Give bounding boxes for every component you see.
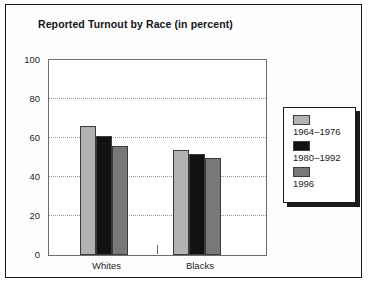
plot-area — [48, 59, 267, 256]
legend-item: 1996 — [293, 167, 355, 189]
legend-swatch — [293, 141, 310, 151]
page-title: Reported Turnout by Race (in percent) — [38, 18, 233, 30]
x-axis-category-label: Blacks — [186, 260, 214, 271]
page-frame: Reported Turnout by Race (in percent) 10… — [5, 4, 362, 278]
bar — [112, 146, 128, 255]
legend-swatch — [293, 167, 310, 177]
legend-item: 1980–1992 — [293, 141, 355, 163]
bar — [173, 150, 189, 255]
y-axis-tick-label: 80 — [29, 93, 40, 104]
legend-item: 1964–1976 — [293, 115, 355, 137]
legend-label: 1964–1976 — [293, 126, 355, 137]
y-axis-tick-label: 60 — [29, 132, 40, 143]
bar — [96, 136, 112, 255]
bar — [189, 154, 205, 255]
y-axis: 100806040200 — [6, 53, 44, 263]
bar-group-whites — [80, 126, 136, 255]
y-axis-tick-label: 20 — [29, 210, 40, 221]
legend-label: 1980–1992 — [293, 152, 355, 163]
legend-swatch — [293, 115, 310, 125]
x-axis-category-label: Whites — [92, 260, 121, 271]
axis-center-tick — [157, 245, 158, 254]
chart-figure: Reported Turnout by Race (in percent) 10… — [6, 5, 361, 277]
y-axis-tick-label: 40 — [29, 171, 40, 182]
bar-group-blacks — [173, 150, 229, 255]
chart-legend: 1964–19761980–19921996 — [283, 107, 356, 203]
bar — [205, 158, 221, 256]
gridline — [49, 98, 266, 99]
bar — [80, 126, 96, 255]
y-axis-tick-label: 100 — [24, 54, 40, 65]
legend-label: 1996 — [293, 178, 355, 189]
y-axis-tick-label: 0 — [35, 249, 40, 260]
